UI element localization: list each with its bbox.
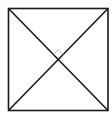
square-diagonals-diagram [0, 0, 112, 114]
right-angle-marker [54, 50, 64, 55]
